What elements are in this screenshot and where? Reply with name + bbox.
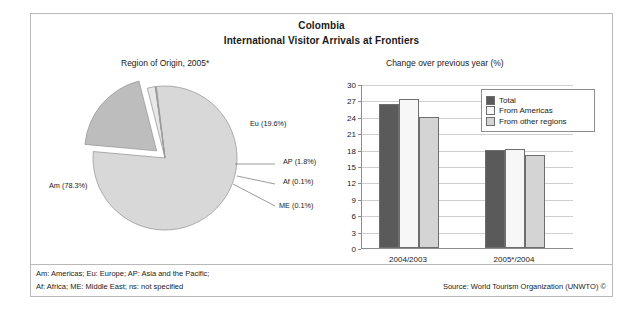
- legend-swatch-from-other-regions: [486, 117, 495, 126]
- pie-leader-line: [237, 176, 275, 184]
- y-tick-mark: [358, 101, 361, 102]
- y-tick-label: 9: [316, 195, 356, 204]
- pie-label-af: Af (0.1%): [283, 177, 313, 186]
- x-tick-label: 2004/2003: [389, 255, 427, 264]
- pie-label-eu: Eu (19.6%): [250, 119, 287, 128]
- bar-total-0: [379, 104, 399, 248]
- y-tick-label: 30: [316, 81, 356, 90]
- footnote-line2: Af: Africa; ME: Middle East; ns: not spe…: [36, 282, 183, 291]
- y-tick-mark: [358, 167, 361, 168]
- y-tick-label: 3: [316, 228, 356, 237]
- pie-label-me: ME (0.1%): [279, 201, 313, 210]
- y-tick-label: 21: [316, 130, 356, 139]
- legend-item-from-other-regions: From other regions: [486, 117, 590, 126]
- y-tick-mark: [358, 200, 361, 201]
- y-tick-label: 15: [316, 163, 356, 172]
- legend-swatch-total: [486, 96, 495, 105]
- y-tick-label: 27: [316, 97, 356, 106]
- y-tick-label: 0: [316, 245, 356, 254]
- bar-from-other-regions-0: [419, 117, 439, 248]
- pie-chart: Am (78.3%) Eu (19.6%) AP (1.8%) Af (0.1%…: [37, 72, 327, 252]
- bar-chart: 036912151821242730 2004/20032005*/2004 T…: [331, 72, 611, 287]
- y-tick-mark: [358, 183, 361, 184]
- figure-title-line1: Colombia: [31, 20, 612, 31]
- grid-line: [362, 85, 573, 86]
- legend-swatch-from-americas: [486, 106, 495, 115]
- bar-chart-legend: Total From Americas From other regions: [481, 89, 595, 132]
- bar-from-other-regions-1: [525, 155, 545, 248]
- bar-total-1: [485, 150, 505, 248]
- bar-from-americas-0: [399, 99, 419, 248]
- legend-label-total: Total: [499, 96, 516, 105]
- y-tick-mark: [358, 249, 361, 250]
- pie-leader-line: [233, 184, 275, 206]
- legend-item-total: Total: [486, 96, 590, 105]
- legend-item-from-americas: From Americas: [486, 106, 590, 115]
- y-tick-label: 18: [316, 146, 356, 155]
- y-tick-mark: [358, 118, 361, 119]
- footer-divider: [31, 264, 612, 265]
- footnote-line1: Am: Americas; Eu: Europe; AP: Asia and t…: [36, 269, 209, 278]
- figure-panel: Colombia International Visitor Arrivals …: [30, 13, 613, 297]
- y-tick-mark: [358, 216, 361, 217]
- source-note: Source: World Tourism Organization (UNWT…: [443, 282, 606, 291]
- pie-chart-subtitle: Region of Origin, 2005*: [121, 58, 209, 68]
- pie-slice-eu: [85, 81, 157, 151]
- y-tick-mark: [358, 233, 361, 234]
- bar-chart-subtitle: Change over previous year (%): [386, 58, 504, 68]
- pie-label-am: Am (78.3%): [49, 181, 88, 190]
- y-tick-label: 24: [316, 113, 356, 122]
- pie-label-ap: AP (1.8%): [283, 157, 316, 166]
- legend-label-from-other-regions: From other regions: [499, 117, 567, 126]
- legend-label-from-americas: From Americas: [499, 106, 553, 115]
- y-tick-mark: [358, 134, 361, 135]
- y-tick-label: 6: [316, 212, 356, 221]
- y-tick-mark: [358, 151, 361, 152]
- x-tick-label: 2005*/2004: [494, 255, 535, 264]
- y-tick-mark: [358, 85, 361, 86]
- y-tick-label: 12: [316, 179, 356, 188]
- figure-title-line2: International Visitor Arrivals at Fronti…: [31, 35, 612, 46]
- bar-from-americas-1: [505, 149, 525, 248]
